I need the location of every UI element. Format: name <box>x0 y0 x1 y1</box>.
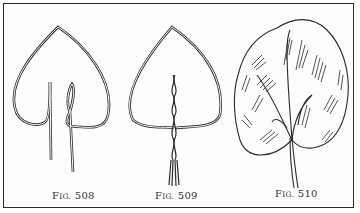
figure-509-twisted-wire-heart <box>125 20 225 190</box>
figure-510-finished-leaf <box>232 10 354 190</box>
caption-prefix-smallcaps: IG. <box>162 192 174 201</box>
wire-heart-twisted-icon <box>125 20 225 190</box>
figure-508-wire-heart <box>10 20 120 180</box>
figure-509-caption: FIG. 509 <box>155 190 198 201</box>
caption-number: 510 <box>298 188 318 199</box>
wire-heart-open-icon <box>10 20 120 180</box>
caption-prefix-smallcaps: IG. <box>282 190 294 199</box>
shaded-leaf-icon <box>232 10 354 190</box>
caption-number: 509 <box>178 190 198 201</box>
figure-508-caption: FIG. 508 <box>52 190 95 201</box>
caption-prefix-smallcaps: IG. <box>59 192 71 201</box>
caption-number: 508 <box>75 190 95 201</box>
figure-510-caption: FIG. 510 <box>275 188 318 199</box>
